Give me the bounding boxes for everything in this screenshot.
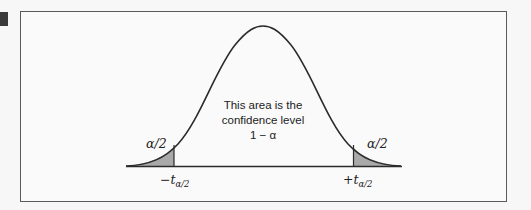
left-critical-subscript: α/2	[176, 179, 190, 189]
bell-curve	[126, 26, 401, 166]
left-tail-label: α/2	[146, 136, 167, 151]
right-tail-label: α/2	[367, 136, 388, 151]
right-critical-sign: +	[343, 172, 353, 187]
right-critical-value: +tα/2	[343, 172, 373, 189]
center-label-line-1: This area is the	[203, 98, 323, 113]
left-critical-value: −tα/2	[160, 172, 190, 189]
left-critical-sign: −	[160, 172, 170, 187]
confidence-level-label: This area is the confidence level 1 − α	[203, 98, 323, 143]
center-label-line-3: 1 − α	[203, 128, 323, 143]
center-label-line-2: confidence level	[203, 113, 323, 128]
right-critical-subscript: α/2	[359, 179, 373, 189]
